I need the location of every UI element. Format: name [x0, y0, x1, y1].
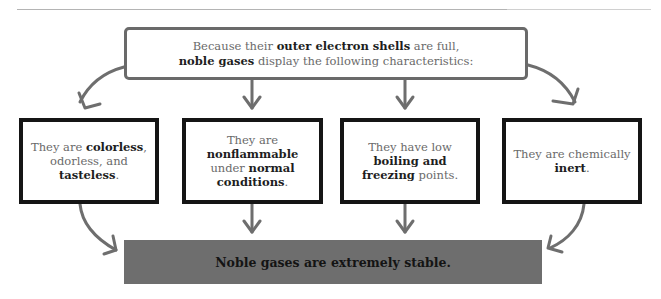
premise-box: Because their outer electron shells are …: [124, 27, 528, 80]
characteristic-text-part: under: [210, 161, 248, 175]
characteristic-text-part: They are: [227, 133, 278, 147]
premise-line1-suffix: are full,: [410, 39, 459, 53]
characteristic-keyword: tasteless: [59, 168, 116, 182]
premise-line2-suffix: display the following characteristics:: [254, 54, 473, 68]
characteristic-keyword: nonflammable: [207, 147, 299, 161]
conclusion-text: Noble gases are extremely stable.: [215, 255, 451, 270]
characteristic-keyword: inert: [554, 161, 585, 175]
characteristic-text-part: They have low: [368, 140, 452, 154]
characteristic-box-boiling-freezing: They have low boiling and freezing point…: [340, 118, 480, 204]
characteristic-box-colorless: They are colorless, odorless, and tastel…: [19, 118, 159, 204]
arrowhead-icon: [553, 89, 578, 104]
characteristic-text-part: They are chemically: [513, 147, 630, 161]
arrow-icon: [550, 204, 584, 248]
arrow-icon: [528, 65, 575, 102]
premise-line1-bold: outer electron shells: [277, 39, 411, 53]
characteristic-text: They are nonflammable under normal condi…: [192, 133, 313, 189]
characteristic-text: They are colorless, odorless, and tastel…: [29, 140, 149, 182]
characteristic-text-part: They are: [31, 140, 86, 154]
characteristic-box-nonflammable: They are nonflammable under normal condi…: [182, 118, 323, 204]
arrow-icon: [80, 204, 116, 250]
premise-line2-bold: noble gases: [179, 54, 255, 68]
characteristic-box-inert: They are chemically inert.: [502, 118, 642, 204]
arrow-icon: [80, 67, 124, 102]
characteristic-text-part: .: [284, 175, 288, 189]
characteristic-keyword: colorless: [86, 140, 143, 154]
conclusion-box: Noble gases are extremely stable.: [124, 240, 542, 284]
characteristic-text: They have low boiling and freezing point…: [350, 140, 470, 182]
characteristic-text-part: points.: [415, 168, 458, 182]
characteristic-text: They are chemically inert.: [512, 147, 632, 175]
characteristic-text-part: .: [586, 161, 590, 175]
characteristic-text-part: .: [115, 168, 119, 182]
premise-line1-prefix: Because their: [193, 39, 277, 53]
